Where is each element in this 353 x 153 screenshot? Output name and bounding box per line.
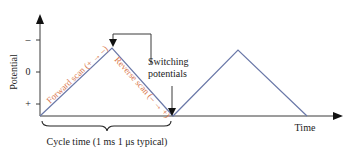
cycle-time-brace: Cycle time (1 ms 1 μs typical): [42, 121, 171, 148]
y-tick-minus: –: [25, 34, 32, 45]
y-axis: – 0 + Potential: [8, 14, 44, 116]
x-axis-arrow-icon: [333, 112, 343, 120]
y-axis-label: Potential: [8, 54, 19, 90]
x-axis: Time: [40, 112, 343, 133]
switching-label-line2: potentials: [148, 68, 187, 79]
y-tick-zero: 0: [26, 66, 31, 77]
y-tick-plus: +: [25, 98, 31, 109]
forward-scan-label: Forward scan (+ → –): [45, 44, 110, 106]
y-axis-arrow-icon: [36, 14, 44, 24]
arrow-down-icon: [109, 39, 117, 47]
switching-label-line1: Switching: [148, 56, 189, 67]
x-axis-label: Time: [295, 122, 316, 133]
cycle-time-label: Cycle time (1 ms 1 μs typical): [47, 136, 168, 148]
cv-waveform-diagram: – 0 + Potential Time Forward scan (+ → –…: [0, 0, 353, 153]
switching-potentials-callout: Switching potentials: [109, 34, 189, 116]
